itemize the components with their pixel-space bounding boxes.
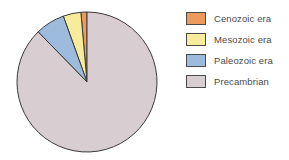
legend-item-precambrian: Precambrian (186, 71, 289, 92)
legend-swatch-mesozoic (186, 33, 206, 46)
chart-legend: Cenozoic era Mesozoic era Paleozoic era … (186, 8, 289, 92)
legend-swatch-paleozoic (186, 54, 206, 67)
pie-svg (0, 0, 180, 160)
legend-label-cenozoic: Cenozoic era (214, 13, 271, 24)
legend-item-paleozoic: Paleozoic era (186, 50, 289, 71)
pie-plot-area (0, 0, 180, 160)
pie-chart-figure: Cenozoic era Mesozoic era Paleozoic era … (0, 0, 289, 160)
legend-label-mesozoic: Mesozoic era (214, 34, 272, 45)
legend-item-cenozoic: Cenozoic era (186, 8, 289, 29)
legend-swatch-cenozoic (186, 12, 206, 25)
legend-label-paleozoic: Paleozoic era (214, 55, 273, 66)
pie-slice-group (17, 12, 157, 152)
legend-swatch-precambrian (186, 75, 206, 88)
legend-item-mesozoic: Mesozoic era (186, 29, 289, 50)
pie-slice (17, 12, 157, 152)
legend-label-precambrian: Precambrian (214, 76, 269, 87)
